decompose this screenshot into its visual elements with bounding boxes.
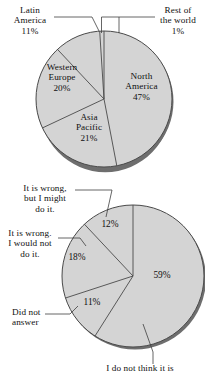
pie-label-asia-pacific: Asia Pacific 21%	[65, 112, 113, 143]
leader-line-rest-of-world	[119, 17, 155, 33]
pie-chart-world-market-share: Latin America 11% Rest of the world 1% W…	[0, 0, 205, 184]
pie-label-north-america: North America 47%	[114, 71, 169, 102]
pie-label-not-wrong: I do not think it is	[80, 363, 200, 373]
pie-chart-attitude: It is wrong, but I might do it. It is wr…	[0, 184, 205, 368]
slice-value-12: 12%	[95, 219, 125, 230]
slice-value-18: 18%	[62, 252, 92, 263]
pie-label-rest-of-world: Rest of the world 1%	[152, 5, 204, 36]
slice-value-59: 59%	[147, 270, 177, 281]
slice-value-11: 11%	[77, 297, 107, 308]
leader-line-latin-america	[54, 17, 99, 31]
pie-label-did-not-answer: Did not answer	[12, 307, 68, 328]
pie-label-western-europe: Western Europe 20%	[33, 62, 91, 93]
pie-label-wrong-would-not: It is wrong. I would not do it.	[0, 228, 60, 259]
pie-label-wrong-might-do: It is wrong, but I might do it.	[12, 183, 78, 214]
pie-label-latin-america: Latin America 11%	[2, 5, 58, 36]
